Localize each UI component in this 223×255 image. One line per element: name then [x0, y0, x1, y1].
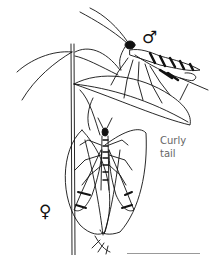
bottom-rule [127, 253, 200, 254]
curly-tail-label: Curly tail [160, 134, 186, 160]
male-insect [80, 8, 208, 103]
curly-tail-label-line1: Curly [160, 134, 186, 147]
female-insect [74, 118, 134, 211]
curly-tail-label-line2: tail [160, 147, 186, 160]
male-symbol: ♂ [142, 27, 157, 47]
line-drawing [0, 0, 223, 255]
curly-tail-pointer [180, 84, 188, 100]
insect-illustration: ♂ ♀ Curly tail [0, 0, 223, 255]
female-symbol: ♀ [39, 201, 51, 221]
plant-stem [71, 44, 75, 255]
